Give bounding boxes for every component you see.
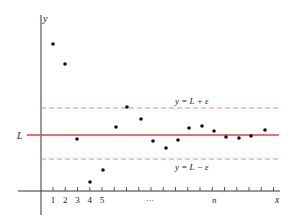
x-tick-label: 3 bbox=[75, 195, 80, 205]
x-axis-label: x bbox=[274, 194, 280, 205]
x-tick-label: 1 bbox=[51, 195, 56, 205]
sequence-point bbox=[263, 128, 267, 132]
x-tick-label: 5 bbox=[100, 195, 105, 205]
sequence-point bbox=[237, 136, 241, 140]
sequence-point bbox=[224, 135, 228, 139]
sequence-point bbox=[249, 134, 253, 138]
sequence-point bbox=[139, 117, 143, 121]
sequence-points bbox=[51, 42, 267, 184]
ellipsis-label: ··· bbox=[146, 196, 154, 205]
sequence-point bbox=[75, 137, 79, 141]
sequence-point bbox=[200, 124, 204, 128]
sequence-point bbox=[164, 146, 168, 150]
limit-label: L bbox=[16, 130, 23, 141]
sequence-point bbox=[125, 105, 129, 109]
sequence-point bbox=[187, 126, 191, 130]
sequence-point bbox=[101, 168, 105, 172]
n-label: n bbox=[212, 195, 217, 205]
sequence-point bbox=[63, 62, 67, 66]
lower-band-label: y = L − ε bbox=[174, 162, 209, 172]
x-axis-ticks bbox=[53, 187, 274, 191]
sequence-convergence-diagram: y x L y = L + ε y = L − ε 12345 ··· n bbox=[0, 0, 294, 223]
upper-band-label: y = L + ε bbox=[174, 96, 209, 106]
sequence-point bbox=[51, 42, 55, 46]
sequence-point bbox=[88, 180, 92, 184]
x-tick-label: 2 bbox=[63, 195, 68, 205]
sequence-point bbox=[151, 139, 155, 143]
x-tick-labels: 12345 bbox=[51, 195, 105, 205]
x-tick-label: 4 bbox=[88, 195, 93, 205]
sequence-point bbox=[212, 129, 216, 133]
sequence-point bbox=[176, 138, 180, 142]
sequence-point bbox=[114, 125, 118, 129]
y-axis-label: y bbox=[42, 13, 48, 24]
